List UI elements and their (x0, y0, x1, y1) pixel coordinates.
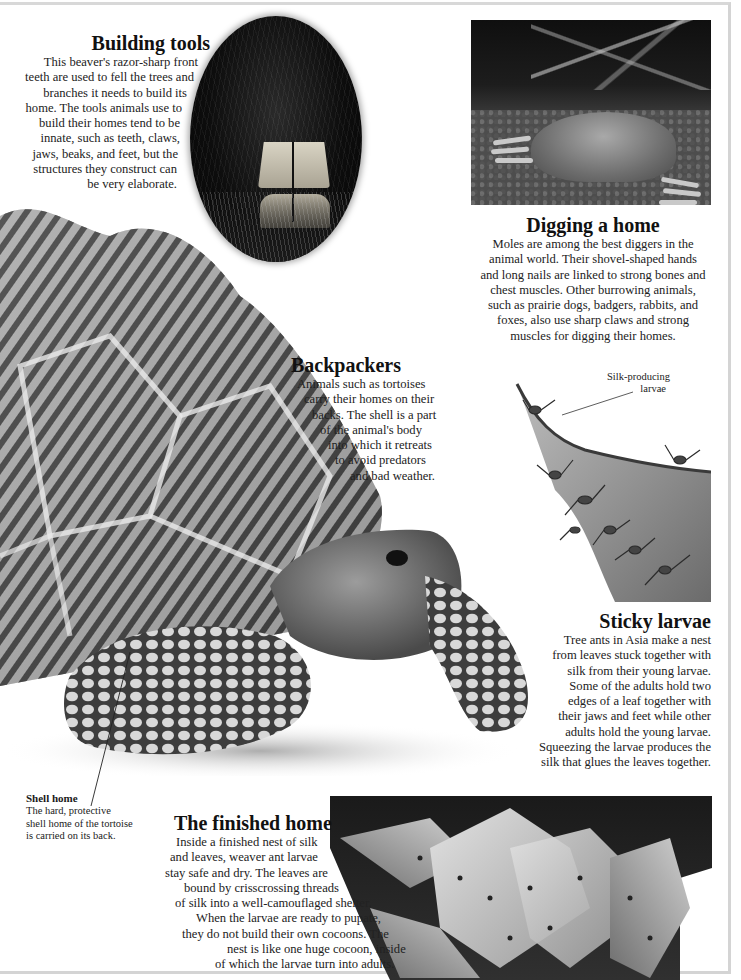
star-tortoise-photo (0, 196, 545, 776)
finished-home-title: The finished home (140, 812, 400, 834)
text-line: branches it needs to build its (0, 86, 210, 101)
finished-home-text: Inside a finished nest of silk and leave… (140, 835, 400, 973)
text-line: This beaver's razor-sharp front (0, 55, 210, 70)
text-line: adults hold the young larvae. (500, 725, 711, 740)
text-line: backs. The shell is a part (291, 408, 491, 423)
backpackers-text: Animals such as tortoises carry their ho… (291, 377, 491, 484)
text-line: Inside a finished nest of silk (140, 835, 400, 850)
text-line: build their homes tend to be (0, 116, 210, 131)
callout-line: Silk-producing (590, 371, 670, 383)
silk-larvae-callout: Silk-producing larvae (590, 371, 670, 395)
mole-digging-photo (471, 20, 711, 205)
text-line: edges of a leaf together with (500, 694, 711, 709)
text-line: Squeezing the larvae produces the (500, 740, 711, 755)
text-line: and leaves, weaver ant larvae (140, 850, 400, 865)
backpackers-title: Backpackers (291, 354, 491, 376)
text-line: be very elaborate. (0, 177, 210, 192)
sticky-larvae-text: Tree ants in Asia make a nest from leave… (500, 633, 711, 771)
text-line: into which it retreats (291, 438, 491, 453)
text-line: silk from their young larvae. (500, 664, 711, 679)
text-line: Tree ants in Asia make a nest (500, 633, 711, 648)
shell-home-title: Shell home (26, 792, 186, 805)
text-line: stay safe and dry. The leaves are (140, 866, 400, 881)
text-line: of the animal's body (291, 423, 491, 438)
callout-line: larvae (590, 383, 670, 395)
text-line: silk that glues the leaves together. (500, 755, 711, 770)
text-line: to avoid predators (291, 453, 491, 468)
text-line: and bad weather. (291, 469, 491, 484)
text-line: nest is like one huge cocoon, inside (140, 942, 400, 957)
text-line: jaws, beaks, and feet, but the (0, 147, 210, 162)
building-tools-section: Building tools This beaver's razor-sharp… (0, 32, 210, 193)
text-line: Animals such as tortoises (291, 377, 491, 392)
sticky-larvae-title: Sticky larvae (500, 610, 711, 632)
backpackers-section: Backpackers Animals such as tortoises ca… (291, 354, 491, 484)
building-tools-title: Building tools (0, 32, 210, 54)
text-line: When the larvae are ready to pupate, (140, 911, 400, 926)
text-line: Some of the adults hold two (500, 679, 711, 694)
finished-home-section: The finished home Inside a finished nest… (140, 812, 400, 973)
text-line: their jaws and feet while other (500, 709, 711, 724)
text-line: teeth are used to fell the trees and (0, 70, 210, 85)
text-line: of which the larvae turn into adults. (140, 957, 400, 972)
text-line: from leaves stuck together with (500, 648, 711, 663)
text-line: bound by crisscrossing threads (140, 881, 400, 896)
building-tools-text: This beaver's razor-sharp front teeth ar… (0, 55, 210, 193)
text-line: innate, such as teeth, claws, (0, 131, 210, 146)
text-line: structures they construct can (0, 162, 210, 177)
text-line: they do not build their own cocoons. The (140, 927, 400, 942)
weaver-ants-on-leaf-photo (515, 380, 711, 602)
text-line: carry their homes on their (291, 392, 491, 407)
text-line: home. The tools animals use to (0, 101, 210, 116)
sticky-larvae-section: Sticky larvae Tree ants in Asia make a n… (500, 610, 711, 771)
text-line: of silk into a well-camouflaged shelter. (140, 896, 400, 911)
